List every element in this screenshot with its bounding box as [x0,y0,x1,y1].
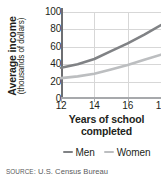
legend-item-women: Women [104,147,151,158]
y-axis-title-units: (thousands of dollars) [18,16,27,95]
y-tick-label: 100 [35,7,61,17]
legend-item-men: Men [63,147,95,158]
y-tick-label: 80 [35,24,61,34]
series-line-men [61,25,161,68]
series-lines [61,12,161,99]
plot-block: 020406080100 [33,6,161,110]
legend-label: Men [76,147,95,158]
income-vs-education-line-chart: Average income (thousands of dollars) 02… [0,0,161,185]
y-tick-label: 60 [35,42,61,52]
x-tick-label: 18 [156,100,161,111]
series-line-women [61,55,161,78]
plot-area [61,12,161,99]
source-text: U.S. Census Bureau [38,167,108,176]
source-label: SOURCE [6,168,34,175]
source-note: SOURCE: U.S. Census Bureau [6,167,161,176]
x-axis-title: Years of school completed [52,114,161,137]
legend-label: Women [117,147,151,158]
legend-swatch-icon [63,151,73,154]
x-tick-label: 14 [89,100,100,111]
y-tick-label: 40 [35,59,61,69]
x-axis-tick-labels: 12141618 [61,99,161,113]
chart-legend: MenWomen [52,144,161,160]
y-tick-label: 20 [35,77,61,87]
legend-swatch-icon [104,151,114,154]
y-axis-title: Average income (thousands of dollars) [0,4,34,108]
x-tick-label: 12 [56,100,67,111]
x-tick-label: 16 [122,100,133,111]
